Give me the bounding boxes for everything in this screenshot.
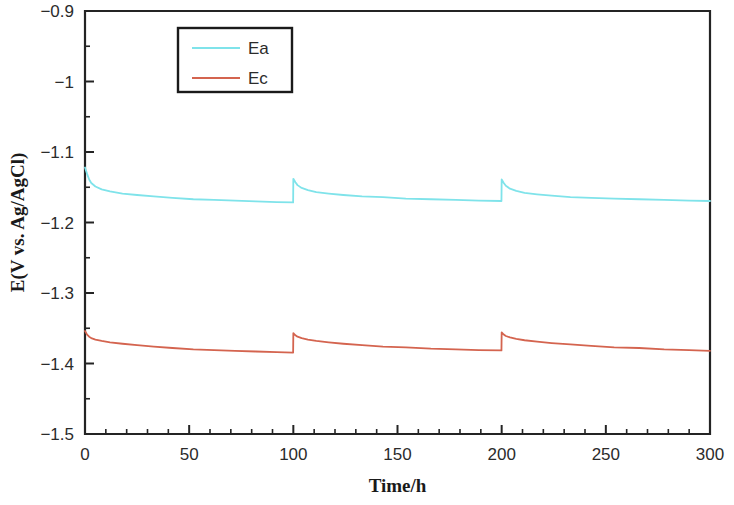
y-tick-label: −1.2 (40, 214, 74, 233)
potential-vs-time-line-chart: 050100150200250300 −1.5−1.4−1.3−1.2−1.1−… (0, 0, 734, 505)
y-tick-label: −1.5 (40, 425, 74, 444)
y-tick-label: −1.3 (40, 284, 74, 303)
legend-box (178, 28, 292, 92)
x-axis-tick-labels: 050100150200250300 (80, 445, 724, 464)
data-series-group (85, 168, 710, 353)
y-axis-title: E(V vs. Ag/AgCl) (7, 153, 29, 293)
x-tick-label: 150 (383, 445, 411, 464)
legend-label-ec: Ec (248, 69, 268, 88)
x-axis-ticks (106, 425, 689, 434)
y-tick-label: −0.9 (40, 2, 74, 21)
legend-label-ea: Ea (248, 39, 269, 58)
x-axis-title: Time/h (369, 475, 427, 496)
y-tick-label: −1.1 (40, 143, 74, 162)
chart-page: 050100150200250300 −1.5−1.4−1.3−1.2−1.1−… (0, 0, 734, 505)
x-tick-label: 50 (180, 445, 199, 464)
y-tick-label: −1.4 (40, 355, 74, 374)
y-tick-label: −1 (55, 73, 74, 92)
x-tick-label: 0 (80, 445, 89, 464)
x-tick-label: 200 (487, 445, 515, 464)
series-line-ec (85, 331, 710, 353)
x-tick-label: 250 (592, 445, 620, 464)
y-axis-tick-labels: −1.5−1.4−1.3−1.2−1.1−1−0.9 (40, 2, 74, 444)
x-tick-label: 300 (696, 445, 724, 464)
y-axis-ticks (85, 46, 94, 399)
series-line-ea (85, 168, 710, 203)
x-tick-label: 100 (279, 445, 307, 464)
chart-legend: EaEc (178, 28, 292, 92)
